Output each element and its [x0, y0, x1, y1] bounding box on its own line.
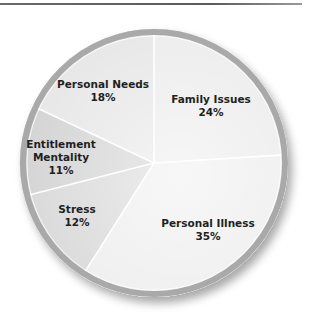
slice-value-label: 11%	[48, 164, 74, 176]
slice-value-label: 24%	[198, 106, 224, 118]
slice-name-label: Stress	[58, 203, 95, 215]
slice-value-label: 35%	[195, 230, 221, 242]
slice-value-label: 18%	[90, 91, 116, 103]
slice-name-label: Family Issues	[171, 93, 251, 105]
slice-name-label: Personal Illness	[161, 217, 254, 229]
slice-name-label: Mentality	[33, 151, 89, 163]
slice-name-label: Personal Needs	[57, 78, 149, 90]
pie-chart: Family Issues24%Personal Illness35%Stres…	[0, 0, 310, 322]
slice-value-label: 12%	[64, 216, 90, 228]
slice-name-label: Entitlement	[26, 138, 96, 150]
